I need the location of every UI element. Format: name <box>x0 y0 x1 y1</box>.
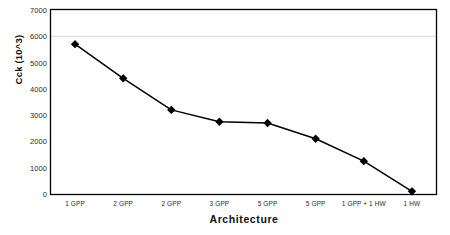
data-point-marker <box>264 120 271 127</box>
chart-figure: Cck (10^3) Architecture 7000600050004000… <box>0 0 450 235</box>
plot-border <box>51 10 437 195</box>
data-point-marker <box>216 118 223 125</box>
data-point-marker <box>360 158 367 165</box>
plot-area <box>0 0 450 235</box>
data-line <box>75 44 412 191</box>
data-markers <box>72 41 416 195</box>
data-point-marker <box>312 135 319 142</box>
